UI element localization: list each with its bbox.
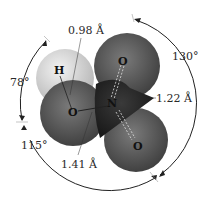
tick-left-top	[44, 36, 50, 42]
hno3-diagram: H O N O O 0.98 Å 1.22 Å 1.41 Å 78° 130° …	[0, 0, 207, 207]
hydroxyl-oxygen-label: O	[68, 106, 78, 119]
arrow-78-top	[42, 40, 47, 46]
arrow-78-bottom	[19, 115, 25, 121]
hydrogen-label: H	[54, 64, 64, 77]
arrow-130-bottom	[159, 170, 165, 177]
label-122: 1.22 Å	[156, 91, 193, 105]
arrow-115-start	[21, 125, 27, 130]
nitrogen-label: N	[107, 97, 117, 110]
arrow-130-top	[134, 18, 141, 23]
label-115: 115°	[21, 139, 48, 152]
tick-top	[132, 14, 134, 22]
top-oxygen-label: O	[118, 55, 128, 68]
bottom-oxygen-label: O	[133, 140, 143, 153]
label-141: 1.41 Å	[61, 157, 98, 171]
label-098: 0.98 Å	[68, 23, 105, 37]
label-78: 78°	[10, 76, 30, 89]
label-130: 130°	[172, 50, 199, 63]
